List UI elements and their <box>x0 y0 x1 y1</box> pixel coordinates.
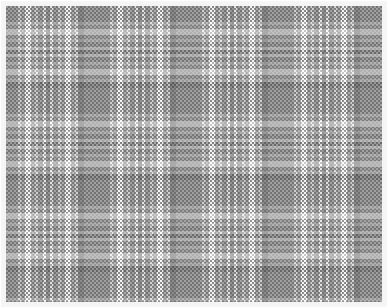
tartan-fabric-swatch <box>6 6 382 302</box>
image-canvas: Grey Tartan Plaid Fabric Swatch Seamless… <box>0 0 388 308</box>
tartan-weave-canvas <box>6 6 382 302</box>
